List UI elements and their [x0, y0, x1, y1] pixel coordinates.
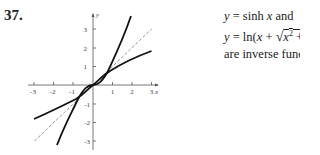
svg-text:-2: -2 — [50, 88, 56, 96]
svg-text:3: 3 — [150, 88, 154, 96]
x-axis-label: x — [154, 88, 159, 96]
x-axis-arrow — [155, 84, 159, 87]
y-axis-arrow — [92, 13, 95, 17]
svg-text:2: 2 — [84, 45, 88, 53]
svg-text:1: 1 — [84, 63, 88, 71]
caption-line-3: are inverse functions. — [224, 46, 300, 63]
svg-text:-1: -1 — [69, 88, 75, 96]
svg-text:-3: -3 — [84, 138, 90, 146]
svg-text:-2: -2 — [84, 119, 90, 127]
svg-text:1: 1 — [111, 88, 115, 96]
svg-text:3: 3 — [84, 26, 88, 34]
svg-text:-3: -3 — [30, 88, 36, 96]
svg-text:2: 2 — [130, 88, 134, 96]
caption-line-1: y = sinh x and — [224, 8, 300, 25]
caption: y = sinh x and y = ln(x + √x2 + 1) are i… — [224, 8, 300, 63]
y-axis-label: y — [95, 11, 100, 19]
svg-text:-1: -1 — [84, 101, 90, 109]
caption-line-2: y = ln(x + √x2 + 1) — [224, 25, 300, 46]
axes — [28, 14, 158, 150]
x-tick-labels: -3 -2 -1 1 2 3 — [30, 88, 154, 96]
sinh-curve — [57, 16, 131, 145]
